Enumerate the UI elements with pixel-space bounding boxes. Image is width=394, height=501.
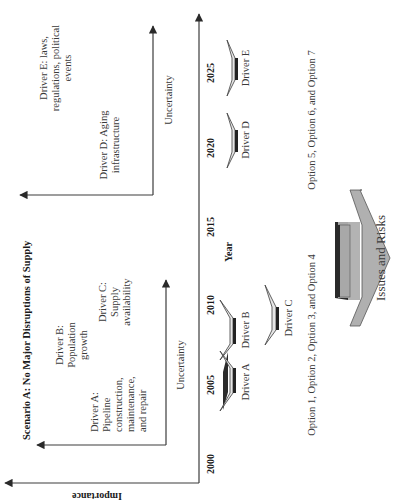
svg-text:and repair: and repair <box>137 389 148 432</box>
year-2025: 2025 <box>205 63 216 83</box>
year-labels: 2000 2005 2010 2015 2020 2025 <box>205 63 216 474</box>
driver-b-arrow-label: Driver B <box>240 311 251 348</box>
driver-d-arrow <box>227 113 238 168</box>
driver-e-text: Driver E: laws, regulations, political e… <box>38 25 73 111</box>
year-2020: 2020 <box>205 138 216 158</box>
svg-text:Supply: Supply <box>109 286 120 317</box>
year-2005: 2005 <box>205 375 216 395</box>
svg-text:infrastructure: infrastructure <box>110 116 121 173</box>
svg-text:Driver C:: Driver C: <box>97 282 108 322</box>
driver-e-arrow <box>227 40 238 96</box>
diagram-title: Scenario A: No Major Disruptions of Supp… <box>21 240 32 440</box>
svg-text:Driver B:: Driver B: <box>54 325 65 365</box>
driver-b-arrow <box>220 300 236 360</box>
driver-a-arrow-label: Driver A <box>240 363 251 400</box>
options-group-1: Option 1, Option 2, Option 3, and Option… <box>306 253 317 435</box>
year-2000: 2000 <box>205 454 216 474</box>
driver-c-arrow <box>265 285 279 345</box>
driver-e-arrow-label: Driver E <box>240 50 251 86</box>
year-axis-label: Year <box>223 241 234 262</box>
driver-c-text: Driver C: Supply availability <box>97 278 132 326</box>
svg-text:regulations, political: regulations, political <box>50 25 61 111</box>
uncertainty-label-upper: Uncertainty <box>163 74 174 124</box>
scenario-diagram: Scenario A: No Major Disruptions of Supp… <box>0 0 394 501</box>
driver-b-text: Driver B: Population growth <box>54 322 89 368</box>
svg-text:Population: Population <box>66 322 77 368</box>
svg-text:events: events <box>62 55 73 82</box>
svg-text:maintenance,: maintenance, <box>125 376 136 432</box>
svg-text:Driver E: laws,: Driver E: laws, <box>38 36 49 100</box>
svg-text:Driver D: Aging: Driver D: Aging <box>98 110 109 180</box>
driver-a-text: Driver A: Pipeline construction, mainten… <box>89 376 148 432</box>
driver-c-arrow-label: Driver C <box>283 299 294 336</box>
year-2015: 2015 <box>205 217 216 237</box>
svg-text:Pipeline: Pipeline <box>101 397 112 432</box>
uncertainty-label-lower: Uncertainty <box>175 339 186 389</box>
driver-d-text: Driver D: Aging infrastructure <box>98 110 121 180</box>
svg-text:Driver A:: Driver A: <box>89 392 100 432</box>
svg-text:growth: growth <box>78 329 89 359</box>
options-group-2: Option 5, Option 6, and Option 7 <box>306 50 317 189</box>
svg-text:availability: availability <box>121 278 132 326</box>
driver-d-arrow-label: Driver D <box>240 121 251 159</box>
svg-text:construction,: construction, <box>113 377 124 432</box>
year-2010: 2010 <box>205 295 216 315</box>
issues-risks-label: Issues and Risks <box>373 215 388 301</box>
importance-label: Importance <box>71 491 122 501</box>
driver-a-arrow <box>219 351 236 412</box>
